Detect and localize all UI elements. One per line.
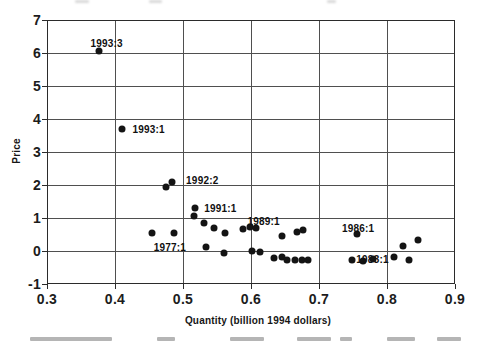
data-point: [305, 256, 312, 263]
clipped-caption-text-top: [437, 337, 461, 341]
data-point: [171, 229, 178, 236]
x-tick-label: 0.6: [231, 291, 271, 307]
data-point: [221, 249, 228, 256]
y-tick-label: 0: [0, 243, 41, 259]
clipped-caption-text-top: [30, 337, 112, 341]
y-axis-tick: [42, 218, 47, 219]
point-label: 1993:3: [91, 38, 123, 49]
data-point: [284, 256, 291, 263]
data-point: [299, 227, 306, 234]
scan-artifact: [327, 0, 336, 3]
x-tick-label: 0.5: [163, 291, 203, 307]
data-point: [169, 178, 176, 185]
data-point: [222, 229, 229, 236]
y-axis-tick: [42, 119, 47, 120]
point-label: 1977:1: [154, 242, 186, 253]
y-axis-tick: [42, 284, 47, 285]
y-tick-label: 3: [0, 144, 41, 160]
y-tick-label: 1: [0, 210, 41, 226]
data-point: [253, 224, 260, 231]
y-tick-label: 6: [0, 45, 41, 61]
data-point: [400, 243, 407, 250]
clipped-caption-text-top: [387, 337, 415, 341]
y-tick-label: 2: [0, 177, 41, 193]
x-axis-tick: [115, 284, 116, 289]
clipped-caption-text-top: [297, 337, 331, 341]
x-axis-tick: [47, 284, 48, 289]
y-axis-tick: [42, 53, 47, 54]
x-axis-tick: [251, 284, 252, 289]
data-point: [119, 125, 126, 132]
scan-artifact: [75, 0, 89, 3]
x-axis-title: Quantity (billion 1994 dollars): [185, 315, 331, 326]
x-tick-label: 0.9: [435, 291, 475, 307]
data-point: [149, 229, 156, 236]
point-label: 1991:1: [204, 203, 236, 214]
data-point: [370, 256, 377, 263]
x-axis-tick: [183, 284, 184, 289]
data-point: [248, 248, 255, 255]
x-axis-tick: [455, 284, 456, 289]
data-point: [348, 257, 355, 264]
clipped-caption-text-top: [340, 337, 352, 341]
scatter-plot-figure: Price Quantity (billion 1994 dollars) 0.…: [0, 0, 478, 342]
data-point: [256, 248, 263, 255]
y-tick-label: 7: [0, 12, 41, 28]
x-tick-label: 0.4: [95, 291, 135, 307]
y-axis-tick: [42, 185, 47, 186]
data-point: [390, 253, 397, 260]
y-axis-tick: [42, 251, 47, 252]
data-point: [192, 205, 199, 212]
y-axis-tick: [42, 152, 47, 153]
data-point: [163, 183, 170, 190]
data-point: [278, 233, 285, 240]
data-point: [271, 255, 278, 262]
data-point: [203, 244, 210, 251]
y-axis-tick: [42, 86, 47, 87]
x-axis-tick: [319, 284, 320, 289]
data-point: [414, 237, 421, 244]
y-tick-label: -1: [0, 276, 41, 292]
y-tick-label: 5: [0, 78, 41, 94]
clipped-caption-text-top: [157, 337, 175, 341]
plot-frame: [47, 20, 455, 284]
point-label: 1993:1: [132, 123, 164, 134]
data-point: [405, 257, 412, 264]
data-point: [201, 219, 208, 226]
x-axis-tick: [387, 284, 388, 289]
scan-artifact: [149, 0, 162, 3]
x-tick-label: 0.3: [27, 291, 67, 307]
y-axis-tick: [42, 20, 47, 21]
x-tick-label: 0.7: [299, 291, 339, 307]
point-label: 1986:1: [342, 223, 374, 234]
x-tick-label: 0.8: [367, 291, 407, 307]
point-label: 1992:2: [186, 174, 218, 185]
y-tick-label: 4: [0, 111, 41, 127]
clipped-caption-text-top: [230, 337, 264, 341]
data-point: [211, 224, 218, 231]
point-label: 1989:1: [247, 216, 279, 227]
data-point: [190, 213, 197, 220]
